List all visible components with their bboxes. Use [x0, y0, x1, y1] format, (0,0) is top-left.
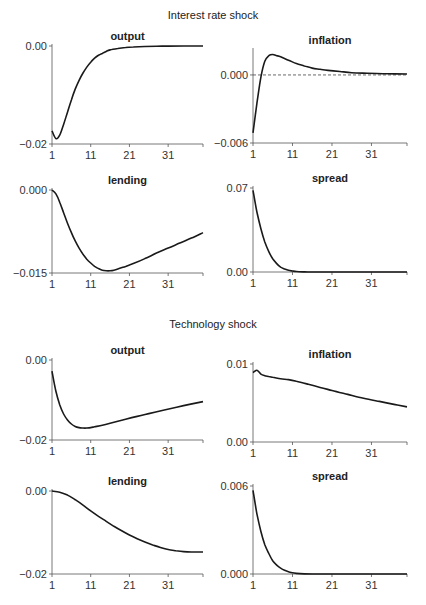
x-tick-label: 31 — [365, 148, 377, 160]
panel-title: inflation — [309, 34, 352, 46]
y-tick-label: −0.02 — [19, 434, 47, 446]
y-tick-label: −0.015 — [13, 267, 47, 279]
x-tick-label: 31 — [365, 277, 377, 289]
x-tick-label: 1 — [250, 277, 256, 289]
x-tick-label: 21 — [123, 579, 135, 591]
series-line — [52, 190, 203, 271]
x-tick-label: 1 — [250, 148, 256, 160]
x-tick-label: 11 — [287, 579, 298, 591]
x-tick-label: 11 — [287, 148, 298, 160]
chart-panel-technology-shock-lending: lending0.00−0.021112131 — [19, 475, 203, 591]
series-line — [52, 491, 203, 552]
x-tick-label: 31 — [162, 579, 174, 591]
series-line — [253, 490, 407, 574]
panel-title: inflation — [309, 348, 352, 360]
x-tick-label: 21 — [123, 149, 135, 161]
impulse-response-charts: output0.00−0.021112131inflation0.000−0.0… — [0, 0, 426, 605]
x-tick-label: 11 — [287, 447, 298, 459]
x-tick-label: 11 — [287, 277, 298, 289]
chart-panel-technology-shock-spread: spread0.0060.0001112131 — [220, 470, 407, 591]
x-tick-label: 31 — [365, 579, 377, 591]
series-line — [52, 46, 203, 139]
series-line — [52, 371, 203, 428]
series-line — [253, 55, 407, 133]
y-tick-label: −0.02 — [19, 568, 47, 580]
panel-title: lending — [108, 174, 147, 186]
y-tick-label: 0.00 — [227, 436, 248, 448]
x-tick-label: 11 — [85, 445, 96, 457]
panel-title: output — [110, 30, 145, 42]
chart-panel-interest-rate-shock-spread: spread0.070.001112131 — [227, 172, 407, 289]
chart-panel-technology-shock-output: output0.00−0.021112131 — [19, 344, 203, 457]
y-tick-label: 0.00 — [26, 485, 47, 497]
x-tick-label: 1 — [49, 278, 55, 290]
x-tick-label: 11 — [85, 278, 96, 290]
x-tick-label: 11 — [85, 579, 96, 591]
panel-title: spread — [312, 172, 348, 184]
x-tick-label: 21 — [123, 445, 135, 457]
y-tick-label: −0.006 — [214, 137, 248, 149]
x-tick-label: 31 — [162, 278, 174, 290]
x-tick-label: 31 — [162, 149, 174, 161]
y-tick-label: 0.000 — [220, 69, 248, 81]
panel-title: spread — [312, 470, 348, 482]
x-tick-label: 21 — [326, 447, 338, 459]
y-tick-label: 0.01 — [227, 358, 248, 370]
x-tick-label: 1 — [49, 149, 55, 161]
series-line — [253, 370, 407, 407]
chart-panel-interest-rate-shock-output: output0.00−0.021112131 — [19, 30, 203, 161]
x-tick-label: 21 — [326, 148, 338, 160]
y-tick-label: 0.006 — [220, 480, 248, 492]
x-tick-label: 31 — [365, 447, 377, 459]
x-tick-label: 1 — [250, 579, 256, 591]
y-tick-label: 0.000 — [220, 568, 248, 580]
series-line — [253, 190, 407, 272]
y-tick-label: 0.000 — [19, 184, 47, 196]
y-tick-label: −0.02 — [19, 138, 47, 150]
x-tick-label: 31 — [162, 445, 174, 457]
x-tick-label: 11 — [85, 149, 96, 161]
x-tick-label: 21 — [123, 278, 135, 290]
chart-panel-technology-shock-inflation: inflation0.010.001112131 — [227, 348, 407, 459]
y-tick-label: 0.00 — [227, 266, 248, 278]
x-tick-label: 1 — [250, 447, 256, 459]
x-tick-label: 1 — [49, 445, 55, 457]
x-tick-label: 1 — [49, 579, 55, 591]
panel-title: lending — [108, 475, 147, 487]
y-tick-label: 0.00 — [26, 354, 47, 366]
x-tick-label: 21 — [326, 579, 338, 591]
chart-panel-interest-rate-shock-lending: lending0.000−0.0151112131 — [13, 174, 203, 290]
chart-panel-interest-rate-shock-inflation: inflation0.000−0.0061112131 — [214, 34, 407, 160]
y-tick-label: 0.00 — [26, 40, 47, 52]
y-tick-label: 0.07 — [227, 182, 248, 194]
panel-title: output — [110, 344, 145, 356]
x-tick-label: 21 — [326, 277, 338, 289]
